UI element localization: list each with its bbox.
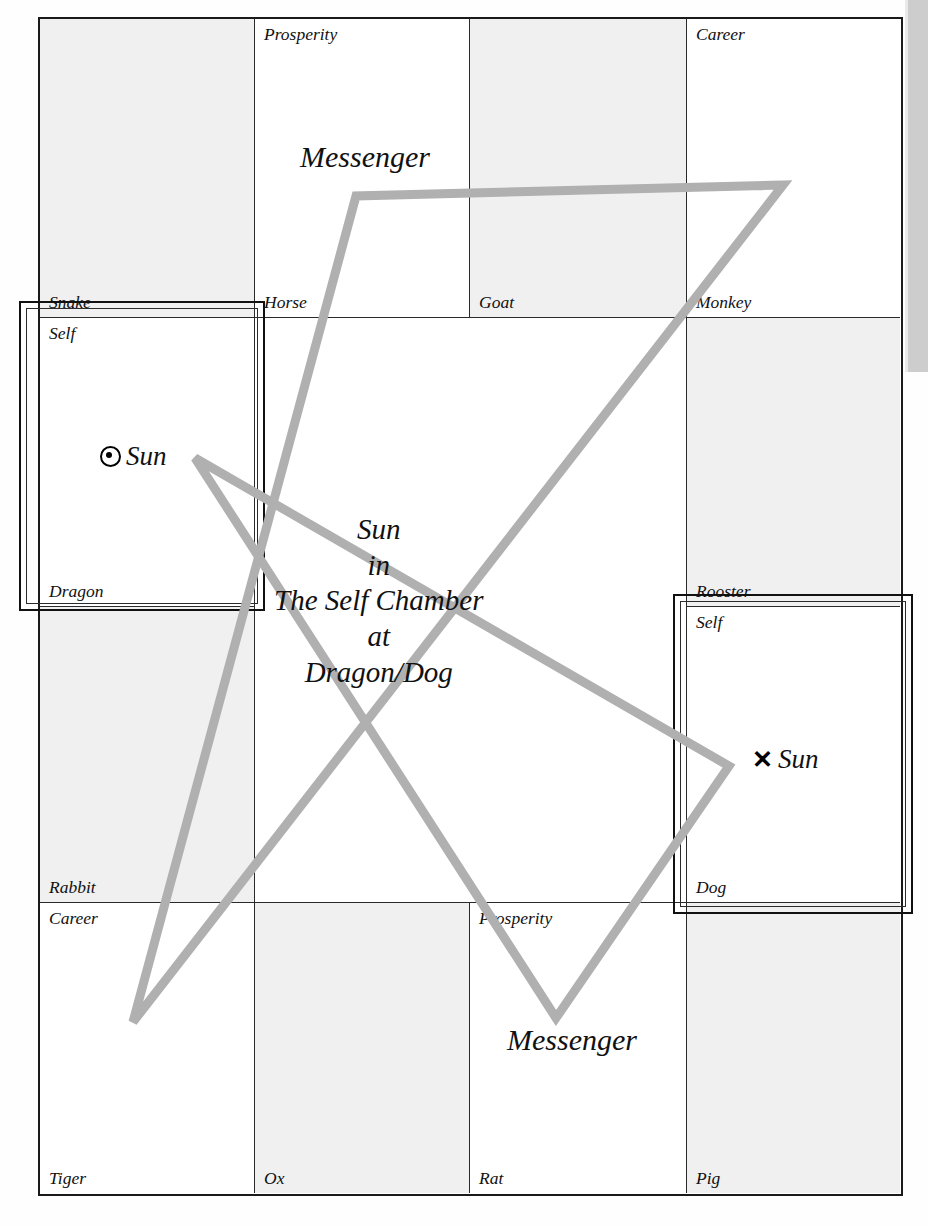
- cell-rooster[interactable]: Rooster: [687, 318, 900, 607]
- cell-monkey-branch: Monkey: [696, 292, 751, 313]
- cell-ox-branch: Ox: [264, 1168, 284, 1189]
- center-caption-line-5: Dragon/Dog: [272, 655, 486, 691]
- cell-goat[interactable]: Goat: [470, 19, 687, 318]
- label-messenger-bottom: Messenger: [507, 1023, 637, 1057]
- cell-goat-branch: Goat: [479, 292, 514, 313]
- cell-dog-branch: Dog: [696, 877, 726, 898]
- scan-edge-band: [908, 0, 928, 372]
- cell-tiger[interactable]: Career Tiger: [40, 903, 255, 1193]
- cross-icon: ✕: [752, 747, 773, 772]
- cell-pig[interactable]: Pig: [687, 903, 900, 1193]
- cell-pig-branch: Pig: [696, 1168, 720, 1189]
- center-caption-line-3: The Self Chamber: [242, 583, 516, 619]
- cell-monkey-chamber: Career: [696, 24, 745, 45]
- cell-rooster-branch: Rooster: [696, 581, 750, 602]
- circled-dot-icon: [100, 446, 121, 467]
- chart-page: Snake Prosperity Horse Goat Career Monke…: [0, 0, 928, 1226]
- marker-sun-dog[interactable]: ✕ Sun: [752, 744, 819, 775]
- cell-rat-chamber: Prosperity: [479, 908, 552, 929]
- cell-dragon-chamber: Self: [49, 323, 75, 344]
- cell-rabbit[interactable]: Rabbit: [40, 607, 255, 903]
- cell-snake[interactable]: Snake: [40, 19, 255, 318]
- cell-horse-chamber: Prosperity: [264, 24, 337, 45]
- cell-ox[interactable]: Ox: [255, 903, 470, 1193]
- cell-rabbit-branch: Rabbit: [49, 877, 96, 898]
- label-messenger-top: Messenger: [300, 140, 430, 174]
- cell-tiger-branch: Tiger: [49, 1168, 86, 1189]
- cell-monkey[interactable]: Career Monkey: [687, 19, 900, 318]
- marker-sun-dragon-label: Sun: [126, 441, 167, 472]
- cell-dog-chamber: Self: [696, 612, 722, 633]
- marker-sun-dog-label: Sun: [778, 744, 819, 775]
- center-caption: Sun in The Self Chamber at Dragon/Dog: [357, 512, 401, 690]
- cell-snake-branch: Snake: [49, 292, 91, 313]
- marker-sun-dragon[interactable]: Sun: [100, 441, 167, 472]
- cell-horse-branch: Horse: [264, 292, 307, 313]
- cell-dragon-branch: Dragon: [49, 581, 103, 602]
- center-caption-line-1: Sun: [357, 512, 401, 548]
- center-caption-line-2: in: [357, 548, 401, 584]
- center-caption-line-4: at: [357, 619, 401, 655]
- cell-tiger-chamber: Career: [49, 908, 98, 929]
- cell-rat-branch: Rat: [479, 1168, 503, 1189]
